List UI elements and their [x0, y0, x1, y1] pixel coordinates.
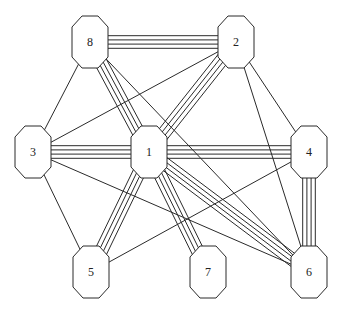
node-label: 7: [205, 265, 211, 279]
edge-8-6: [90, 42, 309, 272]
node-label: 1: [146, 145, 152, 159]
edge-1-4: [149, 146, 309, 159]
node-6[interactable]: 6: [291, 246, 327, 298]
graph-diagram: 12345678: [0, 0, 340, 312]
node-7[interactable]: 7: [190, 246, 226, 298]
node-label: 8: [87, 35, 93, 49]
node-4[interactable]: 4: [291, 126, 327, 178]
edge-8-2: [90, 36, 236, 49]
node-8[interactable]: 8: [72, 16, 108, 68]
node-label: 5: [88, 265, 94, 279]
node-1[interactable]: 1: [131, 126, 167, 178]
node-label: 3: [30, 145, 36, 159]
edges-layer: [33, 36, 315, 277]
nodes-layer: 12345678: [15, 16, 327, 298]
node-label: 2: [233, 35, 239, 49]
node-label: 6: [306, 265, 312, 279]
node-2[interactable]: 2: [218, 16, 254, 68]
node-label: 4: [306, 145, 312, 159]
edge-line: [150, 150, 310, 270]
node-5[interactable]: 5: [73, 246, 109, 298]
edge-line: [148, 154, 308, 274]
node-3[interactable]: 3: [15, 126, 51, 178]
edge-line: [90, 42, 309, 272]
